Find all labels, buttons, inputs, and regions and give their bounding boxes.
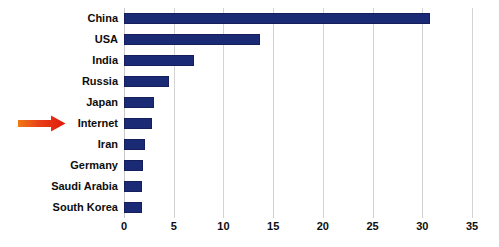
gridline-35: [472, 8, 473, 218]
x-tick-label-10: 10: [217, 220, 229, 232]
bar-row: [124, 8, 472, 29]
category-label-russia: Russia: [82, 71, 118, 92]
bar-row: [124, 155, 472, 176]
bar-row: [124, 71, 472, 92]
x-tick-label-30: 30: [416, 220, 428, 232]
bar-usa: [124, 34, 260, 45]
bar-row: [124, 113, 472, 134]
x-tick-label-20: 20: [317, 220, 329, 232]
bar-south-korea: [124, 202, 142, 213]
category-label-usa: USA: [95, 29, 118, 50]
category-label-germany: Germany: [70, 155, 118, 176]
bar-row: [124, 134, 472, 155]
category-label-south-korea: South Korea: [53, 197, 118, 218]
x-tick-label-5: 5: [171, 220, 177, 232]
category-axis: ChinaUSAIndiaRussiaJapanInternetIranGerm…: [0, 8, 118, 218]
value-axis: 05101520253035: [124, 220, 472, 240]
bar-india: [124, 55, 194, 66]
bar-japan: [124, 97, 154, 108]
category-label-china: China: [87, 8, 118, 29]
bar-internet: [124, 118, 152, 129]
category-label-india: India: [92, 50, 118, 71]
category-label-saudi-arabia: Saudi Arabia: [51, 176, 118, 197]
category-label-iran: Iran: [98, 134, 118, 155]
arrow-right-icon: [18, 115, 66, 132]
bar-row: [124, 50, 472, 71]
x-tick-label-0: 0: [121, 220, 127, 232]
bar-russia: [124, 76, 169, 87]
bar-chart: ChinaUSAIndiaRussiaJapanInternetIranGerm…: [0, 0, 499, 247]
annotation-arrow-internet: [18, 115, 66, 132]
category-label-internet: Internet: [78, 113, 118, 134]
x-tick-label-15: 15: [267, 220, 279, 232]
bar-germany: [124, 160, 143, 171]
plot-area: [124, 8, 472, 218]
bar-row: [124, 176, 472, 197]
bar-row: [124, 29, 472, 50]
x-tick-label-35: 35: [466, 220, 478, 232]
category-label-japan: Japan: [86, 92, 118, 113]
bar-saudi-arabia: [124, 181, 142, 192]
bar-row: [124, 92, 472, 113]
bar-china: [124, 13, 430, 24]
bar-iran: [124, 139, 145, 150]
bar-row: [124, 197, 472, 218]
x-tick-label-25: 25: [366, 220, 378, 232]
